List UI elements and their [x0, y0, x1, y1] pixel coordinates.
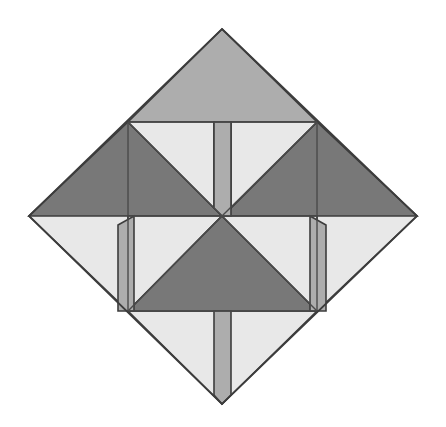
right-vertical-strip [310, 216, 326, 311]
top-vertical-strip [214, 122, 231, 216]
left-vertical-strip [118, 216, 134, 311]
figure-root [0, 0, 446, 427]
pinwheel-diamond-figure [0, 0, 446, 427]
bottom-vertical-strip [214, 311, 231, 404]
